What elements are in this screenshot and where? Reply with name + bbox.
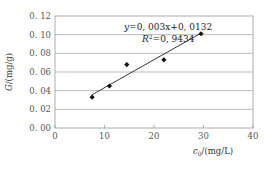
y-tick-label: 0. 04 xyxy=(29,86,51,96)
data-point-diamond xyxy=(124,62,129,67)
x-axis-ticks: 010203040 xyxy=(52,125,258,141)
y-tick-label: 0. 08 xyxy=(29,48,51,58)
x-tick-label: 20 xyxy=(149,131,160,141)
y-tick-label: 0. 10 xyxy=(29,30,51,40)
y-tick-label: 0. 00 xyxy=(29,123,51,133)
x-tick-label: 30 xyxy=(198,131,209,141)
y-tick-label: 0. 02 xyxy=(29,104,51,114)
r-squared-label: R2=0, 9434 xyxy=(141,33,195,44)
scatter-chart: 0. 000. 020. 040. 060. 080. 100. 12 0102… xyxy=(0,0,273,170)
x-axis-label: c0/(mg/L) xyxy=(193,146,233,157)
y-axis-label: G/(mg/g) xyxy=(4,53,14,91)
data-point-diamond xyxy=(90,95,95,100)
x-tick-label: 0 xyxy=(52,131,57,141)
trendline-equation: y=0, 003x+0, 0132 xyxy=(123,22,212,32)
x-tick-label: 40 xyxy=(248,131,259,141)
y-axis-ticks: 0. 000. 020. 040. 060. 080. 100. 12 xyxy=(29,11,51,133)
y-tick-label: 0. 06 xyxy=(29,67,51,77)
x-tick-label: 10 xyxy=(99,131,110,141)
gridlines xyxy=(55,35,253,110)
y-tick-label: 0. 12 xyxy=(29,11,51,21)
data-point-diamond xyxy=(161,57,166,62)
